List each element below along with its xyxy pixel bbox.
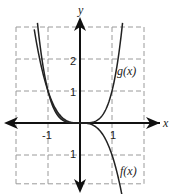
graph: y x -1 1 2 1 1 g(x) f(x) xyxy=(0,0,169,194)
g-label: g(x) xyxy=(117,64,136,78)
f-label: f(x) xyxy=(120,164,137,178)
x-tick-neg1: -1 xyxy=(42,129,52,141)
y-tick-1: 1 xyxy=(70,86,76,98)
x-tick-1: 1 xyxy=(110,129,116,141)
y-tick-neg1: 1 xyxy=(70,148,76,160)
y-axis-label: y xyxy=(77,3,84,17)
x-axis-label: x xyxy=(162,116,169,130)
y-tick-2: 2 xyxy=(70,55,76,67)
